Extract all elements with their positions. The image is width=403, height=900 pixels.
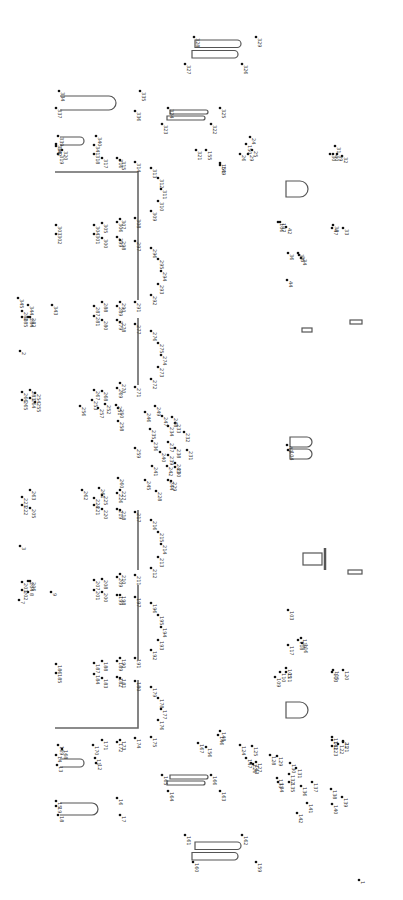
point-label: 308 — [136, 219, 142, 229]
point-label: 187 — [95, 664, 101, 674]
point-345: 345 — [17, 297, 25, 309]
point-label: 44 — [288, 281, 294, 287]
point-label: 185 — [57, 674, 63, 684]
point-label: 248 — [173, 418, 179, 428]
point-label: 326 — [243, 65, 249, 75]
point-321: 321 — [195, 149, 203, 161]
point-label: 162 — [243, 836, 249, 846]
point-label: 290 — [121, 303, 127, 313]
dot-marker-icon — [21, 496, 24, 499]
point-104: 104 — [287, 449, 295, 461]
point-label: 213 — [159, 558, 165, 568]
point-label: 170 — [94, 746, 100, 756]
point-179: 179 — [150, 686, 158, 698]
dot-marker-icon — [116, 236, 119, 239]
dot-marker-icon — [57, 814, 60, 817]
point-245: 245 — [144, 479, 152, 491]
dot-marker-icon — [92, 744, 95, 747]
point-313: 313 — [150, 167, 158, 179]
point-37: 37 — [297, 252, 305, 261]
dot-marker-icon — [119, 814, 122, 817]
dot-marker-icon — [55, 224, 58, 227]
dot-marker-icon — [274, 676, 277, 679]
dot-marker-icon — [58, 90, 61, 93]
dot-marker-icon — [161, 774, 164, 777]
dot-marker-icon — [157, 719, 160, 722]
point-label: 275 — [159, 344, 165, 354]
point-151: 151 — [219, 162, 227, 174]
dot-marker-icon — [19, 350, 22, 353]
point-label: 201 — [95, 591, 101, 601]
point-232: 232 — [183, 431, 191, 443]
point-label: 216 — [152, 521, 158, 531]
point-237: 237 — [167, 441, 175, 453]
point-191: 191 — [134, 657, 142, 669]
dot-marker-icon — [55, 107, 58, 110]
dot-marker-icon — [116, 797, 119, 800]
dot-marker-icon — [157, 342, 160, 345]
point-label: 26 — [241, 155, 247, 161]
point-label: 262 — [83, 491, 89, 501]
dot-marker-icon — [27, 304, 30, 307]
point-label: 243 — [176, 464, 182, 474]
point-label: 223 — [23, 498, 29, 508]
point-180: 180 — [134, 680, 142, 692]
point-257: 257 — [97, 407, 105, 419]
point-label: 111 — [287, 673, 293, 683]
dot-marker-icon — [295, 767, 298, 770]
point-297: 297 — [134, 240, 142, 252]
point-label: 235 — [151, 430, 157, 440]
point-165: 165 — [161, 774, 169, 786]
dot-marker-icon — [134, 680, 137, 683]
point-147: 147 — [245, 757, 253, 769]
dot-marker-icon — [119, 739, 122, 742]
point-295: 295 — [157, 258, 165, 270]
dot-marker-icon — [134, 323, 137, 326]
point-3: 3 — [19, 545, 27, 550]
point-label: 219 — [118, 510, 124, 520]
point-label: 234 — [169, 427, 175, 437]
dot-marker-icon — [150, 330, 153, 333]
point-label: 291 — [136, 303, 142, 313]
point-166: 166 — [210, 774, 218, 786]
shape-bar-2 — [350, 320, 362, 324]
dot-marker-icon — [29, 489, 32, 492]
point-label: 279 — [118, 321, 124, 331]
point-label: 283 — [31, 391, 37, 401]
point-262: 262 — [81, 489, 89, 501]
point-label: 293 — [159, 285, 165, 295]
point-273: 273 — [157, 366, 165, 378]
point-label: 9 — [52, 593, 58, 596]
point-label: 246 — [146, 413, 152, 423]
dot-marker-icon — [21, 589, 24, 592]
point-label: 345 — [19, 299, 25, 309]
point-16: 16 — [116, 797, 124, 806]
dot-marker-icon — [21, 581, 24, 584]
point-label: 312 — [159, 179, 165, 189]
dot-marker-icon — [117, 477, 120, 480]
point-241: 241 — [151, 465, 159, 477]
dot-marker-icon — [255, 861, 258, 864]
point-label: 194 — [162, 628, 168, 638]
dot-marker-icon — [19, 545, 22, 548]
point-label: 110 — [281, 673, 287, 683]
dot-marker-icon — [56, 764, 59, 767]
point-label: 18 — [59, 816, 65, 822]
point-label: 173 — [121, 741, 127, 751]
point-label: 124 — [241, 746, 247, 756]
point-label: 257 — [99, 409, 105, 419]
dot-marker-icon — [150, 378, 153, 381]
dot-marker-icon — [116, 221, 119, 224]
point-115: 115 — [332, 669, 340, 681]
dot-marker-icon — [93, 315, 96, 318]
point-label: 317 — [103, 159, 109, 169]
point-label: 271 — [136, 388, 142, 398]
point-label: 294 — [162, 272, 168, 282]
shape-arch-bottom — [286, 702, 308, 718]
point-182: 182 — [116, 676, 124, 688]
point-label: 119 — [302, 639, 308, 649]
dot-marker-icon — [21, 310, 24, 313]
dot-marker-icon — [155, 490, 158, 493]
point-178: 178 — [157, 697, 165, 709]
point-label: 206 — [31, 582, 37, 592]
